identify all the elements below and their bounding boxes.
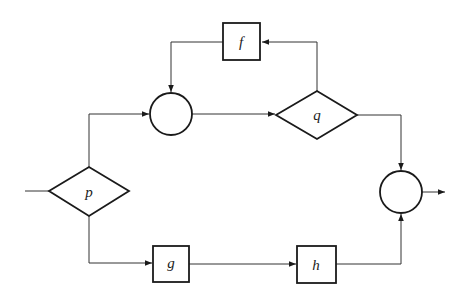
- flowchart-diagram: p q f g h: [0, 0, 467, 301]
- node-g: g: [153, 246, 189, 282]
- edge-q-to-f: [262, 42, 317, 91]
- node-label-p: p: [84, 184, 93, 200]
- edge-f-to-junction-top: [171, 42, 223, 92]
- edge-h-to-junction-out: [336, 214, 401, 264]
- node-label-h: h: [312, 257, 320, 273]
- node-f: f: [223, 23, 260, 60]
- edge-p-to-g: [89, 216, 152, 263]
- node-q: q: [276, 91, 357, 139]
- node-junction-out: [380, 171, 422, 213]
- node-p: p: [49, 167, 129, 216]
- junction-circle-top: [150, 93, 192, 135]
- node-h: h: [297, 246, 336, 283]
- edges: [25, 42, 445, 264]
- edge-p-to-junction-top: [89, 114, 149, 167]
- edge-q-to-junction-out: [357, 115, 401, 170]
- node-label-q: q: [313, 107, 321, 123]
- node-junction-top: [150, 93, 192, 135]
- junction-circle-output: [380, 171, 422, 213]
- node-label-g: g: [167, 255, 175, 271]
